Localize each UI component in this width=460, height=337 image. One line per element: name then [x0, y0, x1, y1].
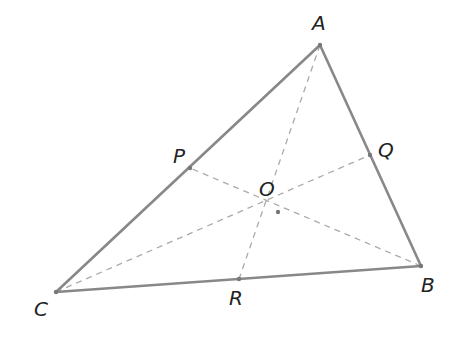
point-C-dot — [54, 290, 58, 294]
vertex-dots — [54, 43, 423, 294]
label-C: C — [34, 297, 48, 321]
triangle-ABC — [56, 45, 421, 292]
label-A: A — [310, 11, 326, 35]
label-R: R — [229, 286, 243, 310]
label-O: O — [259, 177, 275, 201]
label-B: B — [421, 273, 435, 297]
label-Q: Q — [378, 138, 394, 162]
point-B-dot — [419, 264, 423, 268]
point-R-dot — [237, 277, 241, 281]
triangle-diagram: A B C P Q R O — [0, 0, 460, 337]
point-Q-dot — [368, 153, 372, 157]
point-O-dot — [276, 210, 280, 214]
point-A-dot — [318, 43, 322, 47]
cevian-B-P — [190, 168, 421, 266]
cevians — [56, 45, 421, 292]
point-P-dot — [188, 166, 192, 170]
label-P: P — [173, 144, 186, 168]
cevian-A-R — [239, 45, 320, 279]
cevian-C-Q — [56, 155, 370, 292]
